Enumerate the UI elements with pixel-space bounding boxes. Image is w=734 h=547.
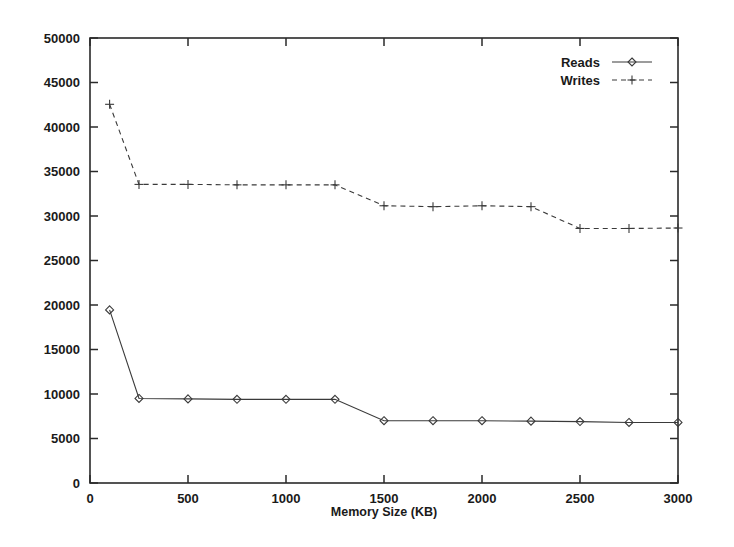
y-tick-label: 20000 [44, 298, 80, 313]
y-tick-label: 30000 [44, 209, 80, 224]
y-tick-label: 40000 [44, 120, 80, 135]
legend-label-writes: Writes [561, 73, 601, 88]
y-tick-label: 0 [73, 476, 80, 491]
y-tick-label: 25000 [44, 253, 80, 268]
y-tick-label: 15000 [44, 342, 80, 357]
x-axis-title: Memory Size (KB) [331, 505, 437, 519]
figure-background [0, 0, 734, 547]
y-tick-label: 45000 [44, 75, 80, 90]
y-tick-label: 10000 [44, 387, 80, 402]
chart-figure: 0500010000150002000025000300003500040000… [0, 0, 734, 547]
x-tick-label: 2000 [468, 491, 497, 506]
x-tick-label: 2500 [566, 491, 595, 506]
y-tick-label: 5000 [51, 431, 80, 446]
y-tick-label: 50000 [44, 31, 80, 46]
x-tick-label: 1000 [272, 491, 301, 506]
x-tick-label: 0 [86, 491, 93, 506]
x-tick-label: 500 [177, 491, 199, 506]
y-tick-label: 35000 [44, 164, 80, 179]
x-tick-label: 1500 [370, 491, 399, 506]
x-tick-label: 3000 [664, 491, 693, 506]
legend-label-reads: Reads [561, 55, 600, 70]
